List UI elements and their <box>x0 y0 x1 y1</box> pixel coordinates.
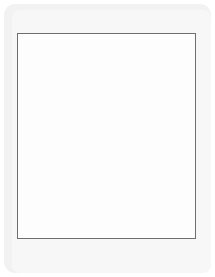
board-frame <box>17 33 196 239</box>
xiangqi-screenshot <box>0 0 215 277</box>
